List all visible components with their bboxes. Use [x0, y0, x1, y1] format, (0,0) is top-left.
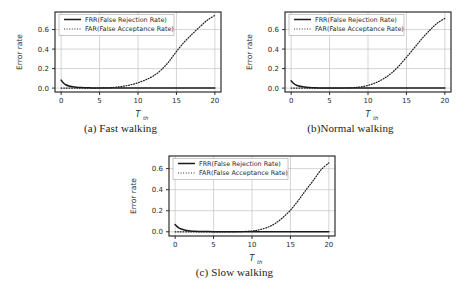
figure-container: 051015200.00.20.40.6 FRR(False Rejection… [0, 0, 465, 290]
chart-a-legend-label-1: FAR(False Acceptance Rate) [85, 25, 174, 33]
chart-a-plot: 051015200.00.20.40.6 FRR(False Rejection… [8, 4, 233, 122]
chart-a-axis-labels: Error rateTth [15, 34, 148, 121]
chart-a-xtick-2: 10 [134, 97, 143, 105]
chart-c-svg: 051015200.00.20.40.6 FRR(False Rejection… [122, 148, 347, 266]
chart-b-xlabel-main: T [366, 110, 372, 119]
chart-a-xlabel-main: T [136, 110, 142, 119]
chart-panel-b: 051015200.00.20.40.6 FRR(False Rejection… [238, 4, 463, 144]
chart-b-legend-label-1: FAR(False Acceptance Rate) [315, 25, 404, 33]
chart-c-ylabel: Error rate [129, 178, 138, 214]
chart-c-legend: FRR(False Rejection Rate)FAR(False Accep… [173, 159, 288, 180]
chart-a-svg: 051015200.00.20.40.6 FRR(False Rejection… [8, 4, 233, 122]
chart-c-axis-labels: Error rateTth [129, 178, 262, 265]
chart-a-caption: (a) Fast walking [8, 122, 233, 134]
chart-a-xtick-4: 20 [210, 97, 219, 105]
chart-b-ytick-2: 0.4 [268, 46, 280, 54]
chart-b-legend-label-0: FRR(False Rejection Rate) [315, 16, 397, 24]
chart-b-xtick-4: 20 [440, 97, 449, 105]
chart-c-legend-label-1: FAR(False Acceptance Rate) [199, 169, 288, 177]
chart-b-xtick-0: 0 [289, 97, 293, 105]
chart-a-xtick-3: 15 [172, 97, 181, 105]
chart-c-caption: (c) Slow walking [122, 266, 347, 278]
chart-b-xtick-2: 10 [364, 97, 373, 105]
chart-a-ylabel: Error rate [15, 34, 24, 70]
chart-c-xtick-1: 5 [211, 241, 215, 249]
chart-c-xtick-4: 20 [324, 241, 333, 249]
chart-b-axis-labels: Error rateTth [245, 34, 378, 121]
chart-a-xlabel-sub: th [143, 115, 148, 121]
chart-c-ytick-1: 0.2 [152, 207, 163, 215]
chart-a-ytick-2: 0.4 [38, 46, 50, 54]
chart-a-ticks: 051015200.00.20.40.6 [38, 26, 219, 105]
chart-c-legend-label-0: FRR(False Rejection Rate) [199, 160, 281, 168]
chart-a-ytick-0: 0.0 [38, 85, 49, 93]
chart-b-xlabel-sub: th [373, 115, 378, 121]
chart-c-ytick-2: 0.4 [152, 186, 164, 194]
chart-a-xtick-0: 0 [59, 97, 63, 105]
chart-b-ylabel: Error rate [245, 34, 254, 70]
chart-c-xlabel-main: T [250, 254, 256, 263]
chart-c-xtick-3: 15 [286, 241, 295, 249]
chart-a-ytick-1: 0.2 [38, 65, 49, 73]
chart-a-ytick-3: 0.6 [38, 26, 50, 34]
chart-c-plot: 051015200.00.20.40.6 FRR(False Rejection… [122, 148, 347, 266]
chart-c-ytick-3: 0.6 [152, 165, 164, 173]
chart-b-svg: 051015200.00.20.40.6 FRR(False Rejection… [238, 4, 463, 122]
chart-b-ytick-0: 0.0 [268, 85, 279, 93]
chart-c-xtick-2: 10 [248, 241, 257, 249]
chart-b-ytick-3: 0.6 [268, 26, 280, 34]
chart-a-legend: FRR(False Rejection Rate)FAR(False Accep… [59, 15, 174, 36]
chart-b-plot: 051015200.00.20.40.6 FRR(False Rejection… [238, 4, 463, 122]
chart-a-xtick-1: 5 [97, 97, 101, 105]
chart-panel-c: 051015200.00.20.40.6 FRR(False Rejection… [122, 148, 347, 288]
chart-b-legend: FRR(False Rejection Rate)FAR(False Accep… [289, 15, 404, 36]
chart-c-xlabel-sub: th [257, 259, 262, 265]
chart-b-caption: (b)Normal walking [238, 122, 463, 134]
chart-a-legend-label-0: FRR(False Rejection Rate) [85, 16, 167, 24]
chart-b-xtick-1: 5 [327, 97, 331, 105]
chart-b-ytick-1: 0.2 [268, 65, 279, 73]
chart-c-ytick-0: 0.0 [152, 228, 163, 236]
chart-panel-a: 051015200.00.20.40.6 FRR(False Rejection… [8, 4, 233, 144]
chart-c-xtick-0: 0 [173, 241, 177, 249]
chart-b-xtick-3: 15 [402, 97, 411, 105]
